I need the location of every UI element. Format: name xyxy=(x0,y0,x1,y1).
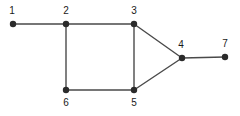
graph-node-2 xyxy=(63,21,69,27)
graph-node-3 xyxy=(131,21,137,27)
graph-node-label-4: 4 xyxy=(178,40,184,50)
graph-canvas xyxy=(0,0,240,116)
graph-edge-3-4 xyxy=(134,24,182,58)
graph-figure: 1234567 xyxy=(0,0,240,116)
graph-node-5 xyxy=(131,87,137,93)
graph-node-label-6: 6 xyxy=(63,98,69,108)
edges-layer xyxy=(13,24,225,90)
graph-node-label-2: 2 xyxy=(63,6,69,16)
graph-node-label-5: 5 xyxy=(131,98,137,108)
graph-node-7 xyxy=(222,54,228,60)
graph-node-label-7: 7 xyxy=(222,39,228,49)
graph-node-4 xyxy=(179,55,185,61)
graph-node-1 xyxy=(10,21,16,27)
graph-edge-5-4 xyxy=(134,58,182,90)
graph-node-6 xyxy=(63,87,69,93)
graph-node-label-3: 3 xyxy=(131,6,137,16)
graph-edge-4-7 xyxy=(182,57,225,58)
graph-node-label-1: 1 xyxy=(9,6,15,16)
